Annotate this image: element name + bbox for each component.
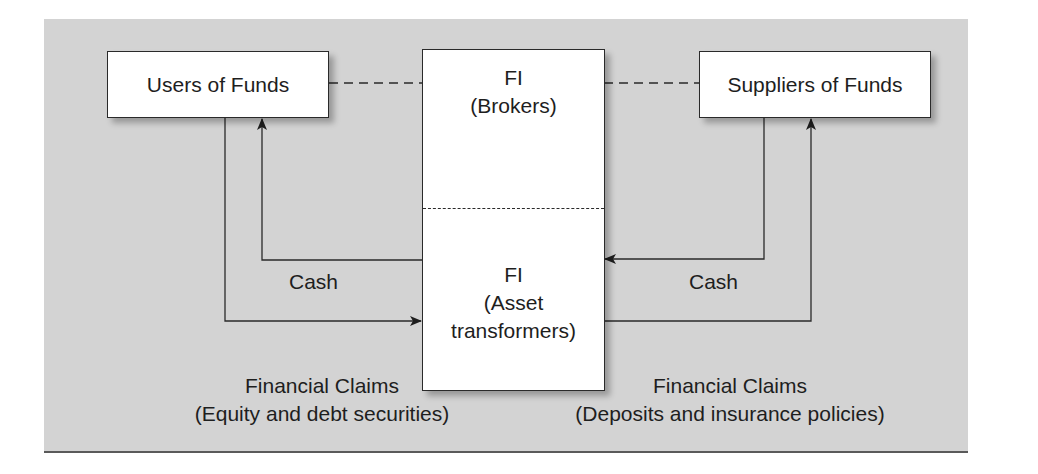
fi-asset-title: FI (504, 261, 523, 289)
fi-asset-transformers-section: FI (Asset transformers) (423, 209, 604, 389)
caption-right-line2: (Deposits and insurance policies) (530, 400, 930, 428)
fi-brokers-subtitle: (Brokers) (470, 92, 556, 120)
suppliers-of-funds-node: Suppliers of Funds (699, 51, 931, 118)
caption-left-line2: (Equity and debt securities) (172, 400, 472, 428)
caption-left: Financial Claims (Equity and debt securi… (172, 372, 472, 428)
fi-brokers-title: FI (504, 64, 523, 92)
fi-asset-subtitle-line1: (Asset (484, 289, 544, 317)
caption-right: Financial Claims (Deposits and insurance… (530, 372, 930, 428)
users-of-funds-label: Users of Funds (147, 71, 289, 99)
caption-left-line1: Financial Claims (172, 372, 472, 400)
users-of-funds-node: Users of Funds (107, 51, 329, 118)
suppliers-of-funds-label: Suppliers of Funds (727, 71, 902, 99)
fi-brokers-section: FI (Brokers) (423, 50, 604, 208)
cash-flow-label-right: Cash (689, 268, 738, 296)
fi-asset-subtitle-line2: transformers) (451, 317, 576, 345)
financial-intermediary-node: FI (Brokers) FI (Asset transformers) (422, 49, 605, 391)
caption-right-line1: Financial Claims (530, 372, 930, 400)
cash-flow-label-left: Cash (289, 268, 338, 296)
